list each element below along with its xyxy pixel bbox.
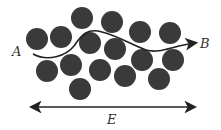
particle bbox=[60, 54, 82, 76]
particle bbox=[71, 7, 93, 29]
particle bbox=[50, 26, 72, 48]
particle-path-diagram: A B E bbox=[0, 0, 221, 130]
particle bbox=[131, 49, 153, 71]
particle bbox=[69, 78, 91, 100]
label-e: E bbox=[106, 112, 117, 127]
particles-group bbox=[26, 7, 184, 100]
label-a: A bbox=[11, 44, 21, 59]
particle bbox=[129, 21, 151, 43]
label-b: B bbox=[199, 36, 210, 51]
particle bbox=[114, 65, 136, 87]
particle bbox=[101, 11, 123, 33]
particle bbox=[104, 38, 126, 60]
particle bbox=[162, 49, 184, 71]
particle bbox=[26, 28, 48, 50]
particle bbox=[159, 22, 181, 44]
particle bbox=[36, 60, 58, 82]
particle bbox=[148, 68, 170, 90]
particle bbox=[89, 59, 111, 81]
